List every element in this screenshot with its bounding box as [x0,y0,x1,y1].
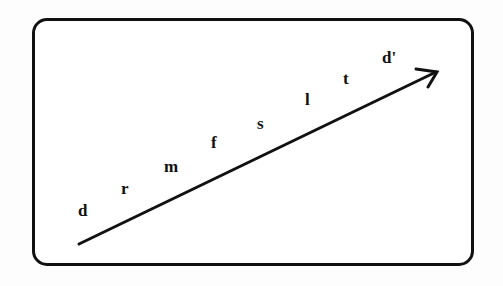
label-t: t [343,70,349,87]
label-d-prime: d' [382,49,396,66]
label-s: s [257,115,264,132]
label-f: f [211,134,217,151]
label-d: d [78,202,87,219]
label-l: l [305,91,310,108]
arrow-icon [0,0,503,286]
label-m: m [164,158,178,175]
label-r: r [121,180,129,197]
